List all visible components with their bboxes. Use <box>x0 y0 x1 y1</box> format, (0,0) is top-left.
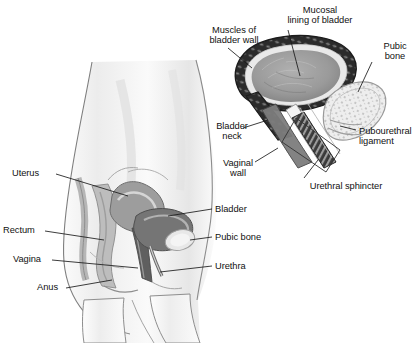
inset-bladder-detail <box>235 36 386 172</box>
label-mucosal-lining-of-bladder: Mucosal lining of bladder <box>272 5 368 26</box>
label-bladder-neck: Bladder neck <box>207 121 257 142</box>
anatomy-illustration <box>0 0 419 343</box>
label-urethra: Urethra <box>215 261 246 271</box>
label-vagina: Vagina <box>13 254 41 264</box>
label-pubic-bone-inset: Pubic bone <box>374 41 416 62</box>
label-anus: Anus <box>37 282 58 292</box>
label-muscles-of-bladder-wall: Muscles of bladder wall <box>196 25 272 46</box>
label-bladder: Bladder <box>215 204 247 214</box>
label-pubic-bone: Pubic bone <box>215 232 261 242</box>
anatomy-figure: Uterus Rectum Vagina Anus Bladder Pubic … <box>0 0 419 343</box>
label-urethral-sphincter: Urethral sphincter <box>300 181 392 191</box>
label-vaginal-wall: Vaginal wall <box>213 158 263 179</box>
label-rectum: Rectum <box>3 225 35 235</box>
label-uterus: Uterus <box>12 168 39 178</box>
label-pubourethral-ligament: Pubourethral ligament <box>359 126 412 147</box>
